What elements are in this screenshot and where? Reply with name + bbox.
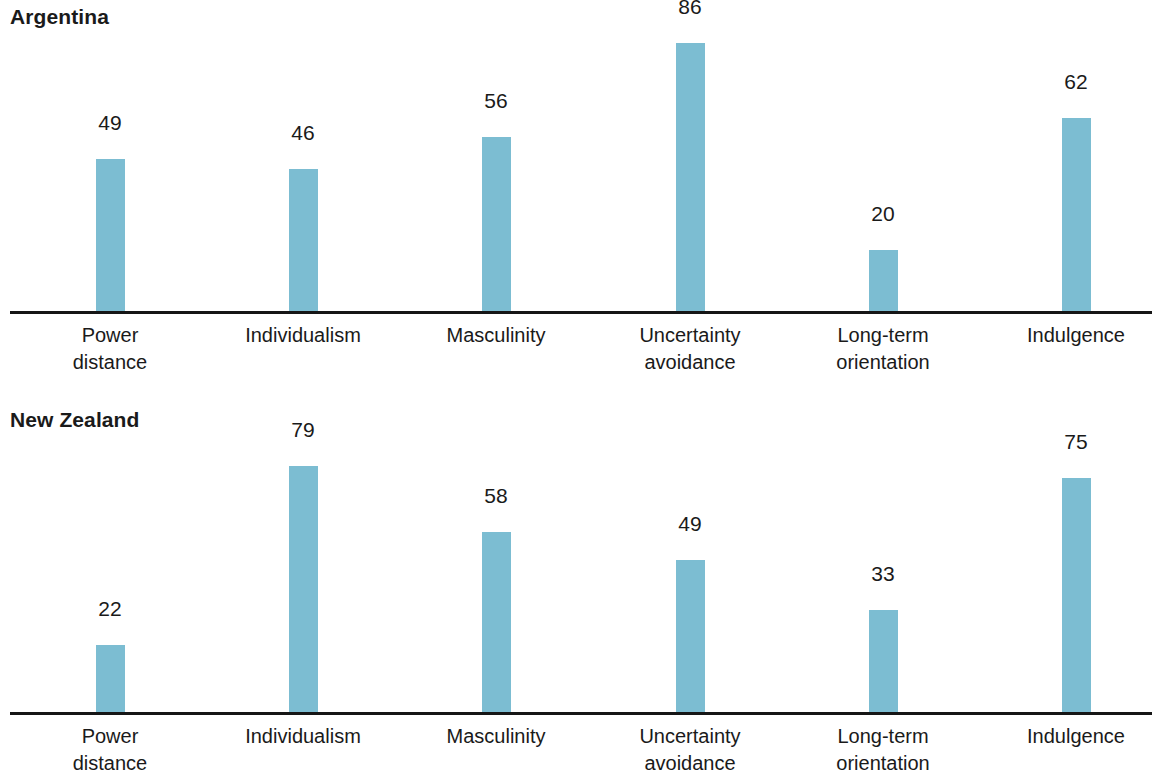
category-label: Individualism [203,723,403,750]
bar[interactable] [482,137,511,313]
bar-value-label: 49 [630,513,750,534]
plot-area-new-zealand: 22 79 58 49 33 75 [0,401,1161,714]
bar-value-label: 58 [436,485,556,506]
category-label: Indulgence [976,723,1161,750]
category-label-line1: Power [82,725,139,747]
category-label-line2: orientation [783,349,983,376]
category-label: Long-term orientation [783,723,983,777]
category-axis-labels-new-zealand: Power distance Individualism Masculinity… [0,723,1161,781]
bar[interactable] [1062,118,1091,313]
bar-value-label: 46 [243,122,363,143]
bar[interactable] [1062,478,1091,714]
bar[interactable] [676,43,705,313]
bar-value-label: 56 [436,90,556,111]
bar[interactable] [96,159,125,313]
bar-value-label: 22 [50,598,170,619]
bar-value-label: 75 [1016,431,1136,452]
plot-area-argentina: 49 46 56 86 20 62 [0,0,1161,313]
bar[interactable] [289,466,318,714]
bar[interactable] [869,250,898,313]
bar-value-label: 62 [1016,71,1136,92]
x-axis-line [10,712,1152,715]
category-label-line1: Individualism [245,725,361,747]
x-axis-line [10,311,1152,314]
category-label-line1: Long-term [837,324,928,346]
chart-panel-argentina: Argentina 49 46 56 86 20 [0,0,1161,400]
category-label: Individualism [203,322,403,349]
bar-value-label: 20 [823,203,943,224]
category-label-line1: Masculinity [447,324,546,346]
bar[interactable] [96,645,125,714]
category-label: Long-term orientation [783,322,983,376]
category-label-line2: orientation [783,750,983,777]
bar-value-label: 79 [243,419,363,440]
category-label-line1: Long-term [837,725,928,747]
category-label-line1: Indulgence [1027,725,1125,747]
bar[interactable] [482,532,511,714]
category-label: Indulgence [976,322,1161,349]
bar[interactable] [676,560,705,714]
category-label-line1: Uncertainty [639,725,740,747]
category-label-line1: Masculinity [447,725,546,747]
chart-panel-new-zealand: New Zealand 22 79 58 49 33 [0,401,1161,781]
bar[interactable] [869,610,898,714]
bar-value-label: 86 [630,0,750,17]
bar-value-label: 49 [50,112,170,133]
category-label: Power distance [10,723,210,777]
chart-page: Argentina 49 46 56 86 20 [0,0,1161,781]
category-label: Power distance [10,322,210,376]
category-label: Masculinity [396,322,596,349]
category-label-line1: Indulgence [1027,324,1125,346]
category-label-line1: Power [82,324,139,346]
category-label: Uncertainty avoidance [590,322,790,376]
category-label-line2: distance [10,349,210,376]
category-axis-labels-argentina: Power distance Individualism Masculinity… [0,322,1161,392]
category-label-line1: Uncertainty [639,324,740,346]
category-label-line1: Individualism [245,324,361,346]
category-label: Uncertainty avoidance [590,723,790,777]
bar-value-label: 33 [823,563,943,584]
category-label-line2: avoidance [590,750,790,777]
category-label-line2: avoidance [590,349,790,376]
category-label: Masculinity [396,723,596,750]
category-label-line2: distance [10,750,210,777]
bar[interactable] [289,169,318,313]
